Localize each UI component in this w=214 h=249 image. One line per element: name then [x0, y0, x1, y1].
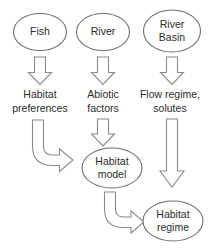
label-habitat-preferences-line1: Habitat: [23, 88, 56, 100]
flow-diagram: Fish River River Basin Habitat p: [0, 0, 214, 249]
flow-diagram-canvas: Fish River River Basin Habitat p: [0, 0, 214, 249]
node-habitat-regime[interactable]: Habitat regime: [143, 201, 203, 241]
arrow-habitat-preferences-to-habitat-model-shape: [33, 120, 74, 172]
arrow-river-to-abiotic-factors-shape: [92, 57, 115, 85]
node-fish[interactable]: Fish: [14, 14, 67, 51]
node-river-basin-label-line1: River: [160, 18, 185, 30]
node-river[interactable]: River: [77, 14, 130, 51]
label-habitat-preferences-line2: preferences: [12, 102, 67, 114]
arrow-flow-regime-to-habitat-regime-shape: [160, 119, 184, 187]
label-flow-regime-solutes: Flow regime, solutes: [140, 88, 200, 114]
arrow-abiotic-factors-to-habitat-model: [92, 119, 115, 146]
label-flow-regime-solutes-line2: solutes: [153, 102, 186, 114]
label-flow-regime-solutes-line1: Flow regime,: [140, 88, 200, 100]
arrow-fish-to-habitat-preferences: [29, 57, 52, 85]
node-river-basin[interactable]: River Basin: [144, 10, 201, 52]
node-fish-label: Fish: [30, 25, 50, 37]
arrow-abiotic-factors-to-habitat-model-shape: [92, 119, 115, 146]
arrow-habitat-model-to-habitat-regime-shape: [105, 192, 145, 233]
node-habitat-regime-label-line2: regime: [157, 221, 189, 233]
node-habitat-regime-label-line1: Habitat: [156, 208, 189, 220]
arrow-fish-to-habitat-preferences-shape: [29, 57, 52, 85]
label-habitat-preferences: Habitat preferences: [12, 88, 67, 114]
label-abiotic-factors: Abiotic factors: [87, 88, 119, 114]
label-abiotic-factors-line1: Abiotic: [87, 88, 119, 100]
node-river-basin-label-line2: Basin: [159, 31, 185, 43]
arrow-river-basin-to-flow-regime-shape: [161, 57, 184, 85]
arrow-habitat-model-to-habitat-regime: [105, 192, 145, 233]
node-river-label: River: [91, 25, 116, 37]
label-abiotic-factors-line2: factors: [87, 102, 119, 114]
arrow-river-basin-to-flow-regime: [161, 57, 184, 85]
node-habitat-model[interactable]: Habitat model: [82, 148, 142, 188]
arrow-habitat-preferences-to-habitat-model: [33, 120, 74, 172]
node-habitat-model-label-line1: Habitat: [95, 155, 128, 167]
arrow-flow-regime-to-habitat-regime: [160, 119, 184, 187]
arrow-river-to-abiotic-factors: [92, 57, 115, 85]
node-habitat-model-label-line2: model: [98, 168, 127, 180]
